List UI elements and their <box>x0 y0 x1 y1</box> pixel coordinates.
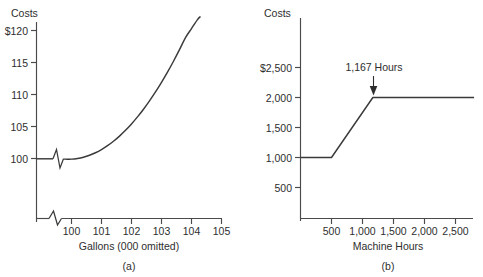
chart-a-x-ticklabel-3: 103 <box>153 225 171 237</box>
chart-a-y-ticklabel-2: 110 <box>11 89 28 101</box>
chart-b-x-ticklabel-4: 2,500 <box>442 225 468 237</box>
chart-panel-a: Costs $120 115 110 105 100 <box>0 0 242 277</box>
chart-a-ylabel: Costs <box>11 7 38 19</box>
chart-panel-b: Costs $2,500 2,000 1,500 1,000 500 <box>241 0 483 277</box>
chart-a-x-axis-break-icon <box>49 211 62 225</box>
chart-b-xlabel: Machine Hours <box>353 240 424 252</box>
chart-a-x-ticklabel-2: 102 <box>123 225 141 237</box>
chart-a-x-ticklabel-0: 100 <box>63 225 81 237</box>
chart-a-x-ticklabel-4: 104 <box>183 225 201 237</box>
chart-a-svg: Costs $120 115 110 105 100 <box>0 0 242 277</box>
chart-a-data-curve <box>64 16 201 159</box>
chart-a-x-ticks <box>72 219 222 225</box>
chart-b-y-ticklabel-0: 500 <box>274 182 292 194</box>
chart-b-ylabel: Costs <box>264 7 291 19</box>
chart-b-x-ticklabel-2: 1,500 <box>380 225 406 237</box>
chart-b-x-ticklabel-0: 500 <box>323 225 341 237</box>
figure-container: Costs $120 115 110 105 100 <box>0 0 483 277</box>
chart-b-annotation-arrow-head-icon <box>370 86 378 96</box>
chart-a-xlabel: Gallons (000 omitted) <box>79 240 179 252</box>
chart-b-svg: Costs $2,500 2,000 1,500 1,000 500 <box>241 0 483 277</box>
chart-b-x-ticklabel-3: 2,000 <box>411 225 437 237</box>
chart-b-y-ticklabel-1: 1,000 <box>266 152 292 164</box>
chart-a-y-ticklabel-1: 105 <box>10 121 28 133</box>
chart-a-y-ticklabel-3: 115 <box>11 57 28 69</box>
chart-b-y-ticklabel-3: 2,000 <box>266 92 292 104</box>
chart-b-y-ticks <box>295 68 301 188</box>
chart-a-curve-break-icon <box>53 150 64 169</box>
chart-a-y-ticks <box>31 31 37 159</box>
chart-a-y-ticklabel-4: $120 <box>5 25 29 37</box>
chart-b-panel-label: (b) <box>382 260 395 272</box>
chart-a-x-ticklabel-1: 101 <box>93 225 111 237</box>
chart-b-y-ticklabel-4: $2,500 <box>260 62 292 74</box>
chart-a-panel-label: (a) <box>123 260 136 272</box>
chart-b-x-ticks <box>332 219 456 225</box>
chart-b-x-ticklabel-1: 1,000 <box>349 225 375 237</box>
chart-a-x-ticklabel-5: 105 <box>213 225 231 237</box>
chart-b-y-ticklabel-2: 1,500 <box>266 122 292 134</box>
chart-b-data-line <box>301 98 475 158</box>
chart-b-annotation-label: 1,167 Hours <box>345 61 402 73</box>
chart-a-y-ticklabel-0: 100 <box>10 153 28 165</box>
